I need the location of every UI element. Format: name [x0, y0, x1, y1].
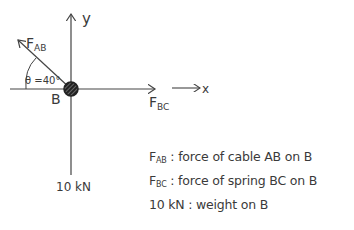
legend-item-f-bc: FBC : force of spring BC on B — [149, 171, 317, 195]
f-ab-label: FAB — [26, 35, 46, 53]
point-b-label: B — [51, 91, 61, 107]
point-b-ball — [64, 82, 78, 96]
y-axis-label: y — [82, 10, 91, 28]
x-axis-label: x — [202, 82, 209, 96]
legend-item-f-ab: FAB : force of cable AB on B — [149, 147, 317, 171]
legend: FAB : force of cable AB on B FBC : force… — [149, 147, 317, 215]
angle-label: θ =40° — [25, 75, 60, 86]
legend-item-weight: 10 kN : weight on B — [149, 195, 317, 215]
f-bc-label: FBC — [149, 94, 169, 112]
weight-label: 10 kN — [56, 180, 91, 194]
